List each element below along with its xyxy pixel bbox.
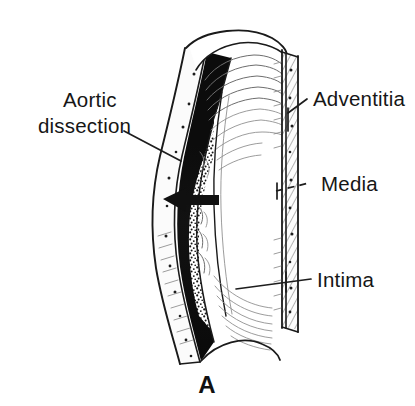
label-aortic-dissection-line1: Aortic [63,88,117,111]
illustration-canvas: Aortic dissection Adventitia Media Intim… [0,0,415,406]
label-intima: Intima [317,268,374,291]
label-adventitia: Adventitia [313,87,405,110]
label-aortic-dissection-line2: dissection [38,114,131,137]
panel-letter: A [198,371,215,398]
label-media: Media [321,172,378,195]
aortic-dissection-figure: Aortic dissection Adventitia Media Intim… [0,0,415,406]
